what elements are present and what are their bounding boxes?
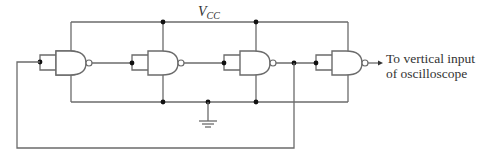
inversion-bubble (270, 60, 276, 66)
junction-dot (314, 61, 319, 66)
output-label-line-2: of oscilloscope (386, 66, 475, 81)
vcc-label: VCC (198, 4, 220, 21)
output-label-line-1: To vertical input (386, 51, 475, 66)
nand-gate-3 (222, 51, 276, 75)
nand-gate-2 (130, 51, 184, 75)
junction-dot (161, 20, 166, 25)
junction-dot (130, 61, 135, 66)
inversion-bubble (178, 60, 184, 66)
inversion-bubble (86, 60, 92, 66)
ground-icon (199, 102, 217, 127)
output-label: To vertical input of oscilloscope (386, 51, 475, 81)
junction-dot (222, 61, 227, 66)
junction-dot (161, 100, 166, 105)
nand-gate-4 (314, 51, 368, 75)
junction-dot (254, 20, 259, 25)
output-arrow-icon (368, 61, 383, 66)
inversion-bubble (362, 60, 368, 66)
nand-gate-1 (38, 51, 92, 75)
junction-dot (254, 100, 259, 105)
